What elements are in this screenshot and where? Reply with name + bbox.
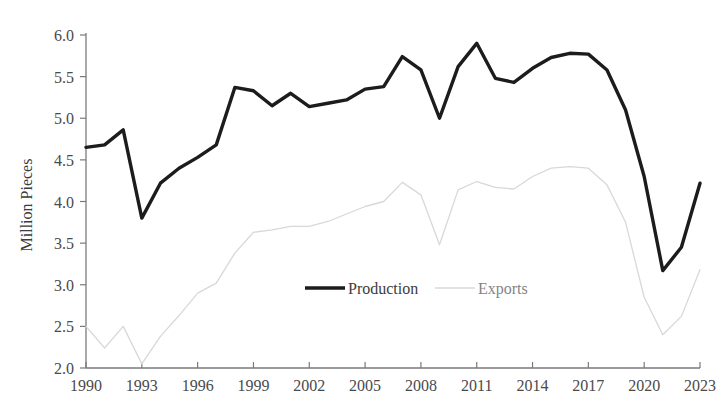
- y-tick-label: 2.0: [54, 360, 74, 377]
- x-tick-label: 2023: [684, 377, 716, 394]
- chart-container: 2.02.53.03.54.04.55.05.56.0 199019931996…: [0, 0, 717, 417]
- x-tick-label: 1996: [182, 377, 214, 394]
- y-tick-label: 3.0: [54, 277, 74, 294]
- y-axis-title: Million Pieces: [18, 159, 35, 252]
- x-tick-label: 2008: [405, 377, 437, 394]
- y-tick-label: 4.0: [54, 194, 74, 211]
- x-tick-label: 1993: [126, 377, 158, 394]
- legend-label-exports: Exports: [478, 280, 528, 298]
- x-tick-label: 2020: [628, 377, 660, 394]
- series-line-production: [86, 43, 700, 270]
- y-tick-label: 5.5: [54, 69, 74, 86]
- y-tick-label: 4.5: [54, 152, 74, 169]
- x-tick-label: 2005: [349, 377, 381, 394]
- y-tick-label: 5.0: [54, 110, 74, 127]
- y-axis: 2.02.53.03.54.04.55.05.56.0: [54, 27, 86, 377]
- x-tick-label: 2014: [517, 377, 549, 394]
- x-axis: 1990199319961999200220052008201120142017…: [70, 362, 716, 394]
- chart-legend: ProductionExports: [305, 280, 528, 298]
- x-tick-label: 2002: [293, 377, 325, 394]
- x-tick-label: 2017: [572, 377, 604, 394]
- x-tick-label: 1990: [70, 377, 102, 394]
- line-chart: 2.02.53.03.54.04.55.05.56.0 199019931996…: [0, 0, 717, 417]
- legend-label-production: Production: [348, 280, 418, 297]
- series-line-exports: [86, 167, 700, 364]
- y-tick-label: 2.5: [54, 318, 74, 335]
- x-tick-label: 1999: [237, 377, 269, 394]
- data-series-group: [86, 43, 700, 364]
- y-tick-label: 3.5: [54, 235, 74, 252]
- x-tick-label: 2011: [461, 377, 492, 394]
- y-tick-label: 6.0: [54, 27, 74, 44]
